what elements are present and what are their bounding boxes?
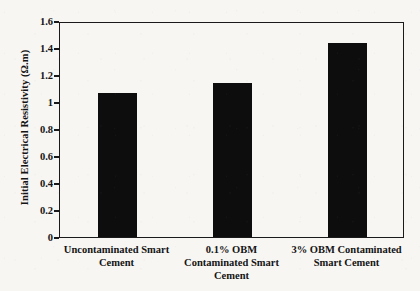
y-tick: 1.4 — [20, 42, 59, 56]
y-tick-label: 1.6 — [40, 15, 53, 29]
y-tick: 1.2 — [20, 69, 59, 83]
x-category-label: Uncontaminated Smart Cement — [59, 243, 175, 269]
plot-area — [59, 22, 404, 238]
y-tick: 0.4 — [20, 177, 59, 191]
bar — [213, 83, 252, 237]
y-tick-label: 0 — [48, 231, 53, 245]
y-tick: 0 — [20, 231, 59, 245]
y-tick: 1 — [20, 96, 59, 110]
bar — [98, 93, 137, 237]
x-category-label: 3% OBM Contaminated Smart Cement — [289, 243, 405, 269]
y-tick-label: 1.2 — [40, 69, 53, 83]
y-tick-label: 1 — [48, 96, 53, 110]
y-tick-label: 1.4 — [40, 42, 53, 56]
y-tick: 0.8 — [20, 123, 59, 137]
y-tick: 1.6 — [20, 15, 59, 29]
y-tick: 0.6 — [20, 150, 59, 164]
y-tick-label: 0.2 — [40, 204, 53, 218]
y-tick-label: 0.8 — [40, 123, 53, 137]
bar-chart-figure: Initial Electrical Resistivity (Ω.m) 00.… — [0, 0, 420, 291]
y-tick-label: 0.6 — [40, 150, 53, 164]
x-category-label: 0.1% OBM Contaminated Smart Cement — [174, 243, 290, 282]
y-tick-label: 0.4 — [40, 177, 53, 191]
bar — [328, 43, 367, 237]
y-tick: 0.2 — [20, 204, 59, 218]
